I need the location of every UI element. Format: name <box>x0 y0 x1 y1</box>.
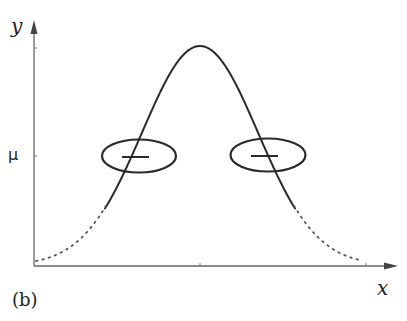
y-tick-label-mu: μ <box>8 145 18 164</box>
right-ellipse-marker <box>231 139 306 172</box>
panel-label: (b) <box>12 289 38 310</box>
left-ellipse-marker <box>102 140 176 173</box>
diagram-canvas <box>0 0 407 321</box>
x-axis-label: x <box>377 276 388 300</box>
bell-curve <box>105 46 295 208</box>
y-axis-label: y <box>11 14 22 38</box>
bell-curve-tails <box>36 206 360 261</box>
x-axis-arrowhead <box>384 263 398 270</box>
y-axis-arrowhead <box>31 20 38 34</box>
